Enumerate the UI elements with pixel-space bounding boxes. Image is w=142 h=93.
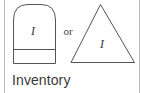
triangle-label: I — [99, 37, 105, 51]
triangle-outline — [71, 5, 135, 63]
arch-inventory-symbol: I — [14, 5, 56, 64]
arch-label: I — [30, 24, 36, 38]
figure-caption: Inventory — [12, 72, 71, 88]
or-connector-text: or — [63, 25, 73, 37]
triangle-inventory-symbol: I — [71, 5, 135, 63]
